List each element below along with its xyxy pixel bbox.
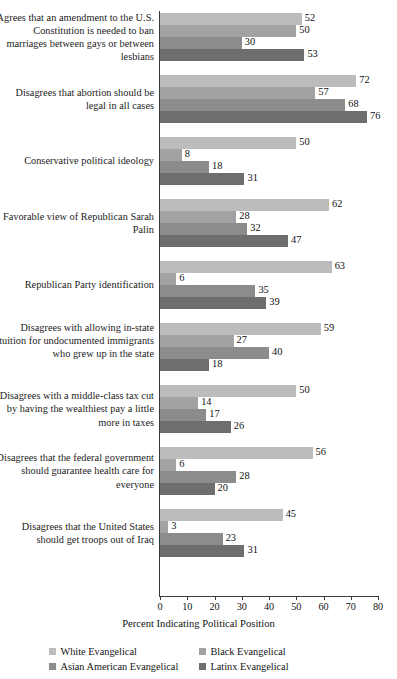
bar-row: 50 <box>160 385 378 397</box>
bar <box>160 37 242 49</box>
plot-area: Agrees that an amendment to the U.S. Con… <box>0 0 397 600</box>
bar-row: 53 <box>160 49 378 61</box>
x-tick <box>242 596 243 600</box>
bar-value-label: 47 <box>291 234 301 246</box>
bar <box>160 285 255 297</box>
legend-swatch <box>49 663 56 670</box>
x-tick <box>351 596 352 600</box>
x-tick-label: 60 <box>311 601 337 613</box>
bar <box>160 149 182 161</box>
legend-swatch <box>49 648 56 655</box>
bar-value-label: 59 <box>324 322 334 334</box>
legend-label: Latinx Evangelical <box>211 661 289 672</box>
bar <box>160 359 209 371</box>
bar <box>160 509 283 521</box>
bar-group: Disagrees that the United States should … <box>0 509 397 557</box>
x-tick <box>378 596 379 600</box>
bar-value-label: 63 <box>335 260 345 272</box>
legend-item: Latinx Evangelical <box>199 659 349 674</box>
bar-row: 32 <box>160 223 378 235</box>
bar <box>160 397 198 409</box>
x-tick <box>296 596 297 600</box>
bar-value-label: 56 <box>316 446 326 458</box>
bar-value-label: 28 <box>239 210 249 222</box>
bar-row: 8 <box>160 149 378 161</box>
bar-group: Agrees that an amendment to the U.S. Con… <box>0 13 397 61</box>
bar <box>160 335 234 347</box>
bar-value-label: 23 <box>226 532 236 544</box>
bar-value-label: 45 <box>286 508 296 520</box>
bar-row: 68 <box>160 99 378 111</box>
bar-row: 50 <box>160 137 378 149</box>
bar-row: 56 <box>160 447 378 459</box>
bar <box>160 25 296 37</box>
category-label: Disagrees that abortion should be legal … <box>0 86 154 112</box>
bar <box>160 111 367 123</box>
bar-group: Favorable view of Republican Sarah Palin… <box>0 199 397 247</box>
bar-value-label: 8 <box>185 148 190 160</box>
bar <box>160 235 288 247</box>
bar-value-label: 6 <box>179 272 184 284</box>
x-tick <box>324 596 325 600</box>
legend-label: Black Evangelical <box>211 646 286 657</box>
x-tick-label: 20 <box>202 601 228 613</box>
bar <box>160 87 315 99</box>
legend: White EvangelicalBlack EvangelicalAsian … <box>0 644 397 674</box>
bar-row: 62 <box>160 199 378 211</box>
category-label: Republican Party identification <box>0 278 154 291</box>
bar-value-label: 26 <box>234 420 244 432</box>
bar-value-label: 62 <box>332 198 342 210</box>
bar <box>160 49 304 61</box>
bar <box>160 297 266 309</box>
bar-row: 6 <box>160 273 378 285</box>
bar-row: 47 <box>160 235 378 247</box>
bar-group: Disagrees with a middle-class tax cut by… <box>0 385 397 433</box>
bar <box>160 99 345 111</box>
bar-value-label: 14 <box>201 396 211 408</box>
bar-row: 59 <box>160 323 378 335</box>
x-tick <box>160 596 161 600</box>
bar-row: 76 <box>160 111 378 123</box>
bar-value-label: 72 <box>359 74 369 86</box>
bar-value-label: 39 <box>269 296 279 308</box>
bar-group: Disagrees that abortion should be legal … <box>0 75 397 123</box>
bar-row: 18 <box>160 161 378 173</box>
bar <box>160 533 223 545</box>
bar-row: 50 <box>160 25 378 37</box>
bar-value-label: 18 <box>212 160 222 172</box>
legend-label: Asian American Evangelical <box>61 661 179 672</box>
bar-value-label: 57 <box>318 86 328 98</box>
category-label: Disagrees with a middle-class tax cut by… <box>0 389 154 429</box>
bar <box>160 261 332 273</box>
category-label: Disagrees that the federal government sh… <box>0 451 154 491</box>
bar-row: 23 <box>160 533 378 545</box>
category-label: Disagrees that the United States should … <box>0 520 154 546</box>
x-tick-label: 10 <box>174 601 200 613</box>
x-tick-label: 0 <box>147 601 173 613</box>
legend-swatch <box>199 648 206 655</box>
bar-value-label: 18 <box>212 358 222 370</box>
category-label: Agrees that an amendment to the U.S. Con… <box>0 11 154 64</box>
bar <box>160 161 209 173</box>
bar <box>160 385 296 397</box>
x-tick-label: 40 <box>256 601 282 613</box>
bar <box>160 211 236 223</box>
bar <box>160 273 176 285</box>
bar-row: 31 <box>160 545 378 557</box>
category-label: Disagrees with allowing in-state tuition… <box>0 321 154 361</box>
bar-row: 3 <box>160 521 378 533</box>
bar-group: Disagrees that the federal government sh… <box>0 447 397 495</box>
bar-row: 57 <box>160 87 378 99</box>
bar-value-label: 50 <box>299 24 309 36</box>
bar-group: Conservative political ideology5081831 <box>0 137 397 185</box>
bar-row: 30 <box>160 37 378 49</box>
bar-value-label: 20 <box>218 482 228 494</box>
legend-item: Asian American Evangelical <box>49 659 189 674</box>
bar-value-label: 17 <box>209 408 219 420</box>
bar-chart-figure: Agrees that an amendment to the U.S. Con… <box>0 0 397 679</box>
bar-value-label: 53 <box>307 48 317 60</box>
bar-row: 45 <box>160 509 378 521</box>
bar-row: 14 <box>160 397 378 409</box>
bar <box>160 521 168 533</box>
bar-group: Republican Party identification6363539 <box>0 261 397 309</box>
